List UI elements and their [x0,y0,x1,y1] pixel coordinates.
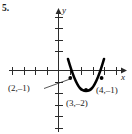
figure-container: 5. x [0,0,132,134]
coordinate-graph: 5. x [0,0,132,134]
label-vertex-point: (3,–2) [66,98,88,108]
leader-line-left-point [44,79,72,89]
label-left-point: (2,–1) [8,83,30,93]
point-marker-right [100,76,104,80]
label-right-point: (4,–1) [96,85,118,95]
y-axis: y [55,5,67,132]
problem-number: 5. [2,3,9,13]
y-axis-label: y [61,5,66,15]
point-marker-vertex [84,88,88,92]
y-axis-arrow-icon [56,8,62,14]
x-axis-label: x [120,72,125,82]
